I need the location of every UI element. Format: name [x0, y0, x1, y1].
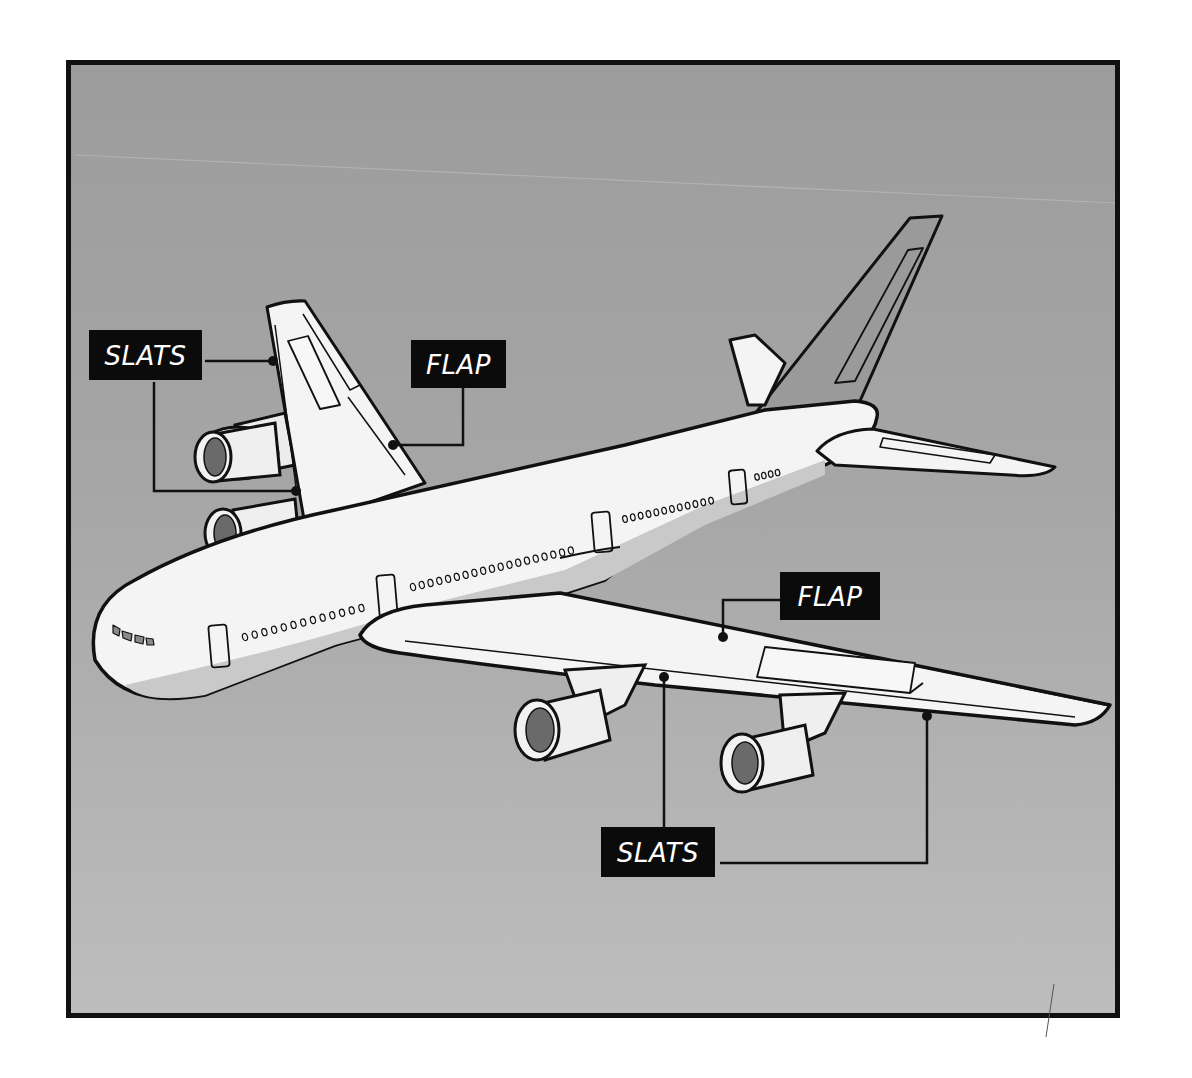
- label-slats-far-wing: SLATS: [89, 330, 202, 380]
- far-engine-outer: [195, 413, 295, 482]
- tail-fin: [750, 216, 942, 420]
- diagram-frame: SLATS FLAP FLAP SLATS: [66, 60, 1120, 1018]
- near-stabilizer: [817, 429, 1055, 476]
- label-flap-near-wing: FLAP: [780, 572, 880, 620]
- near-engine-inner: [515, 665, 645, 760]
- near-wing: [360, 593, 1110, 725]
- label-slats-near-wing: SLATS: [601, 827, 715, 877]
- scratch-mark: [1030, 980, 1060, 1040]
- near-engine-outer: [721, 693, 845, 792]
- aircraft-illustration: [71, 65, 1115, 1013]
- label-flap-far-wing: FLAP: [411, 340, 506, 388]
